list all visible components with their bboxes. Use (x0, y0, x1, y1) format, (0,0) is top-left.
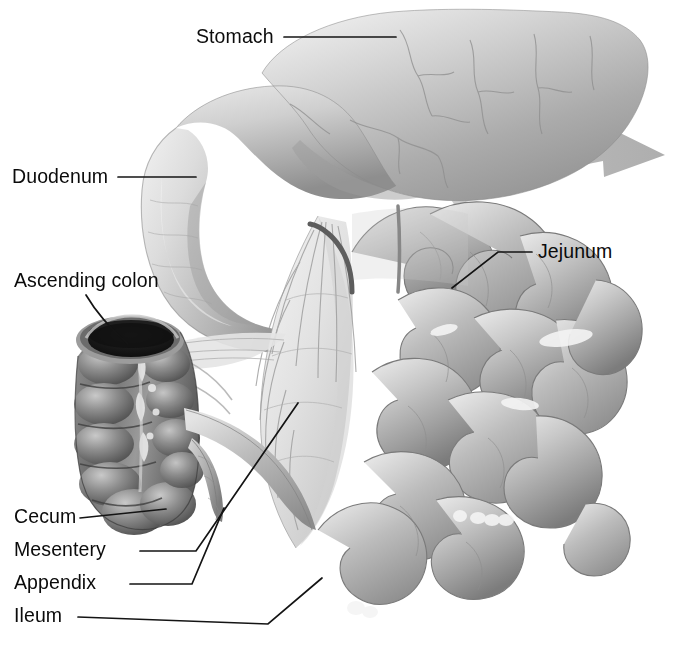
leader-ileum (78, 578, 322, 624)
ascending-colon-cecum (74, 316, 204, 535)
label-duodenum: Duodenum (12, 167, 108, 187)
mesenteric-vessel-2 (398, 206, 400, 292)
label-stomach: Stomach (196, 27, 274, 47)
label-ascending-colon: Ascending colon (14, 271, 159, 291)
anatomy-figure: Stomach Duodenum Ascending colon Jejunum… (0, 0, 675, 658)
mesentery-sheet (352, 208, 468, 286)
label-ileum: Ileum (14, 606, 62, 626)
label-cecum: Cecum (14, 507, 76, 527)
label-appendix: Appendix (14, 573, 96, 593)
label-mesentery: Mesentery (14, 540, 106, 560)
label-jejunum: Jejunum (538, 242, 612, 262)
